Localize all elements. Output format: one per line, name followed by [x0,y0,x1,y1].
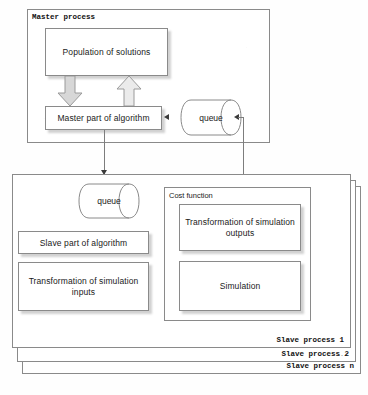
master-process-title: Master process [32,13,95,21]
population-to-algorithm-arrow [57,76,83,107]
master-part-of-algorithm-label: Master part of algorithm [46,113,161,124]
architecture-diagram: Master process Population of solutions M… [0,0,368,395]
queue-to-master-arrowhead [164,114,169,120]
slave-to-master-connector-horizontal [238,117,244,118]
transformation-of-simulation-outputs-box: Transformation of simulation outputs [179,204,301,251]
master-to-slave-connector-vertical [104,130,105,175]
slave-process-2-caption: Slave process 2 [281,350,349,358]
master-part-of-algorithm-box: Master part of algorithm [45,106,162,130]
slave-to-master-connector-vertical [243,117,244,177]
slave-part-of-algorithm-box: Slave part of algorithm [18,231,149,254]
transformation-of-simulation-inputs-label: Transformation of simulation inputs [19,276,148,298]
slave-process-n-caption: Slave process n [286,362,354,370]
simulation-box: Simulation [179,261,301,311]
population-of-solutions-box: Population of solutions [45,28,168,76]
slave-queue-cylinder: queue [78,183,140,219]
population-of-solutions-label: Population of solutions [46,47,167,58]
master-queue-cylinder: queue [180,99,242,136]
simulation-label: Simulation [180,281,300,292]
cost-function-title: Cost function [169,191,213,200]
slave-process-1-caption: Slave process 1 [276,336,344,344]
algorithm-to-population-arrow [116,76,142,107]
slave-part-of-algorithm-label: Slave part of algorithm [19,237,148,248]
transformation-of-simulation-inputs-box: Transformation of simulation inputs [18,262,149,311]
transformation-of-simulation-outputs-label: Transformation of simulation outputs [180,217,300,239]
